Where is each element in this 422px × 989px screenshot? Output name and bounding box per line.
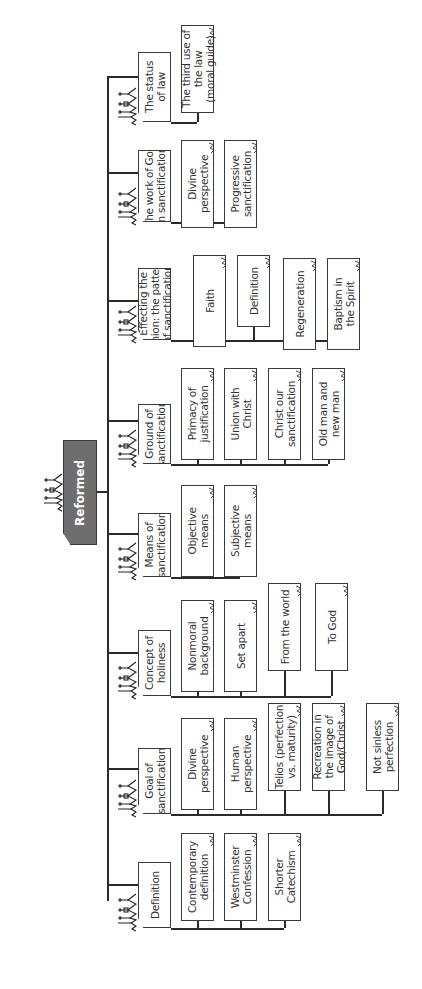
category-node[interactable]: Goal of sanctification xyxy=(138,748,171,814)
branch-line xyxy=(107,420,140,422)
child-connector xyxy=(328,460,330,464)
church-skyline-icon xyxy=(116,778,138,818)
category-node[interactable]: Concept of holiness xyxy=(138,630,171,696)
child-label: Old man and new man xyxy=(317,382,341,446)
category-label: The work of God in sanctification xyxy=(143,145,167,227)
child-label: Primacy of justification xyxy=(186,385,210,442)
church-skyline-icon xyxy=(116,660,138,700)
category-label: The status of law xyxy=(143,61,167,113)
child-connector xyxy=(284,791,286,814)
category-node[interactable]: Definition xyxy=(138,862,171,928)
trunk-line xyxy=(107,76,109,901)
child-label: Shorter Catechism xyxy=(273,851,297,904)
squiggle-icon xyxy=(295,370,303,382)
child-label: Recreation in the image of God/Christ xyxy=(311,714,347,779)
church-skyline-icon xyxy=(116,304,138,344)
category-node[interactable]: The work of God in sanctification xyxy=(138,150,171,222)
child-label: From the world xyxy=(279,590,291,665)
child-label: Divine perspective xyxy=(186,155,210,213)
squiggle-icon xyxy=(251,835,259,847)
squiggle-icon xyxy=(393,705,401,717)
category-node[interactable]: The status of law xyxy=(138,52,171,122)
category-label: Concept of holiness xyxy=(143,636,167,690)
child-label: Not sinless perfection xyxy=(371,720,395,774)
squiggle-icon xyxy=(251,370,259,382)
child-bus-line xyxy=(171,814,382,816)
root-label: Reformed xyxy=(73,460,87,526)
child-connector xyxy=(284,460,286,464)
child-connector xyxy=(197,810,199,814)
church-skyline-icon xyxy=(116,892,138,932)
squiggle-icon xyxy=(208,835,216,847)
child-connector xyxy=(197,460,199,464)
child-label: Subjective means xyxy=(229,505,253,557)
child-label: Objective means xyxy=(186,507,210,554)
squiggle-icon xyxy=(251,720,259,732)
squiggle-icon xyxy=(251,602,259,614)
church-skyline-icon xyxy=(116,86,138,126)
child-connector xyxy=(382,791,384,814)
child-connector xyxy=(240,810,242,814)
child-connector xyxy=(240,692,242,696)
squiggle-icon xyxy=(208,370,216,382)
child-label: The third use of the law (moral guide) xyxy=(180,30,216,108)
squiggle-icon xyxy=(208,487,216,499)
child-bus-line xyxy=(171,122,197,124)
branch-line xyxy=(107,172,140,174)
child-connector xyxy=(197,921,199,928)
squiggle-icon xyxy=(208,142,216,154)
child-bus-line xyxy=(171,696,331,698)
branch-line xyxy=(107,768,140,770)
category-label: Ground of sanctification xyxy=(143,401,167,467)
child-bus-line xyxy=(171,577,240,579)
child-connector xyxy=(197,113,199,122)
squiggle-icon xyxy=(295,705,303,717)
child-label: Westminster Confession xyxy=(229,846,253,909)
child-label: Divine perspective xyxy=(186,735,210,793)
child-connector xyxy=(197,692,199,696)
church-skyline-icon xyxy=(116,186,138,226)
child-connector xyxy=(331,671,333,696)
squiggle-icon xyxy=(208,27,216,39)
child-label: Nonmoral background xyxy=(186,616,210,675)
squiggle-icon xyxy=(264,257,272,269)
church-skyline-icon xyxy=(116,541,138,581)
child-bus-line xyxy=(171,464,328,466)
child-label: Definition xyxy=(248,267,260,315)
squiggle-icon xyxy=(339,370,347,382)
child-label: Contemporary definition xyxy=(186,841,210,913)
squiggle-icon xyxy=(208,602,216,614)
child-connector xyxy=(328,791,330,814)
category-node[interactable]: Means of sanctification xyxy=(138,513,171,577)
category-node[interactable]: Effecting the union: the pattern of sanc… xyxy=(138,268,171,340)
child-connector xyxy=(284,921,286,928)
squiggle-icon xyxy=(251,142,259,154)
category-label: Effecting the union: the pattern of sanc… xyxy=(137,259,173,349)
child-label: Union with Christ xyxy=(229,388,253,441)
child-connector xyxy=(240,921,242,928)
squiggle-icon xyxy=(342,585,350,597)
child-label: Human perspective xyxy=(229,735,253,793)
branch-line xyxy=(107,533,140,535)
child-connector xyxy=(284,671,286,696)
child-label: Telios (perfection vs. maturity) xyxy=(273,705,297,789)
branch-line xyxy=(107,884,140,886)
child-label: Faith xyxy=(204,289,216,313)
branch-line xyxy=(107,76,140,78)
child-label: Set apart xyxy=(235,623,247,669)
squiggle-icon xyxy=(310,260,318,272)
squiggle-icon xyxy=(208,720,216,732)
branch-line xyxy=(107,652,140,654)
child-label: Regeneration xyxy=(294,271,306,338)
church-skyline-icon xyxy=(116,428,138,468)
squiggle-icon xyxy=(251,487,259,499)
squiggle-icon xyxy=(220,257,228,269)
category-node[interactable]: Ground of sanctification xyxy=(138,404,171,464)
church-skyline-icon xyxy=(42,472,64,512)
child-connector xyxy=(240,460,242,464)
root-node-reformed[interactable]: Reformed xyxy=(63,440,97,545)
category-label: Definition xyxy=(149,871,161,919)
child-label: Christ our sanctification xyxy=(273,381,297,447)
branch-line xyxy=(107,300,140,302)
child-bus-line xyxy=(171,928,284,930)
